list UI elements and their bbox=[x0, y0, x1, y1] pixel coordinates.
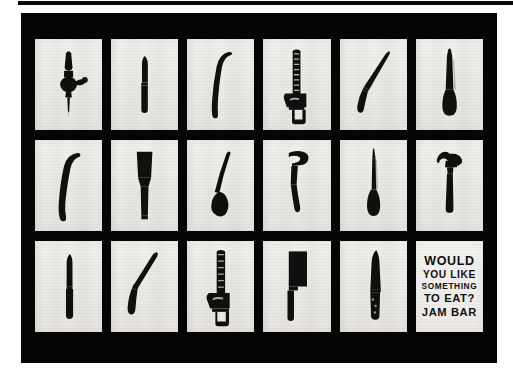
cell-chisel bbox=[111, 140, 178, 231]
cell-hand-drill bbox=[35, 39, 102, 130]
cell-folding-knife bbox=[111, 39, 178, 130]
cell-hatchet bbox=[263, 140, 330, 231]
top-rule bbox=[18, 1, 513, 5]
cell-sickle-blade bbox=[35, 140, 102, 231]
cell-saw bbox=[187, 241, 254, 332]
artwork-grid: WOULD YOU LIKE SOMETHING TO EAT? JAM BAR bbox=[35, 39, 483, 332]
cell-cleaver bbox=[263, 241, 330, 332]
cell-claw-hammer bbox=[416, 140, 483, 231]
cell-pocket-knife bbox=[35, 241, 102, 332]
cell-awl bbox=[340, 140, 407, 231]
poster-frame: WOULD YOU LIKE SOMETHING TO EAT? JAM BAR bbox=[21, 13, 497, 363]
cell-curved-knife bbox=[340, 39, 407, 130]
text-line-to-eat: TO EAT? bbox=[424, 293, 475, 304]
cell-chefs-knife bbox=[340, 241, 407, 332]
text-line-jam-bar: JAM BAR bbox=[422, 307, 477, 318]
cell-handsaw bbox=[263, 39, 330, 130]
cell-file bbox=[416, 39, 483, 130]
text-line-something: SOMETHING bbox=[422, 282, 478, 290]
text-line-would: WOULD bbox=[424, 255, 474, 268]
cell-boning-knife bbox=[111, 241, 178, 332]
text-line-you-like: YOU LIKE bbox=[423, 270, 476, 280]
cell-ladle bbox=[187, 140, 254, 231]
cell-text-panel: WOULD YOU LIKE SOMETHING TO EAT? JAM BAR bbox=[416, 241, 483, 332]
cell-curved-blade bbox=[187, 39, 254, 130]
